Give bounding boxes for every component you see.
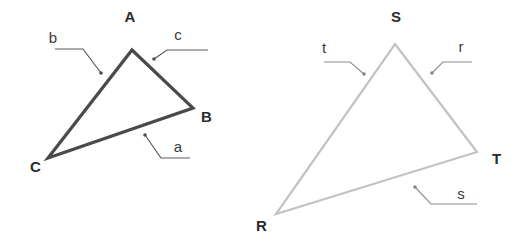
vertex-label-r: R — [256, 217, 267, 234]
side-label-c: c — [174, 26, 182, 43]
triangle-rst-outline — [276, 44, 477, 214]
vertex-label-t: T — [492, 150, 501, 167]
side-b-leader-line — [55, 49, 101, 73]
geometry-figure: A B C a b c — [0, 0, 527, 251]
side-s-leader-line — [415, 187, 477, 204]
side-a-leader-line — [145, 135, 190, 158]
vertex-label-a: A — [125, 8, 136, 25]
side-t-leader-group — [324, 62, 366, 76]
side-t-leader-line — [324, 62, 364, 74]
side-label-r: r — [459, 38, 464, 55]
side-a-leader-group — [143, 133, 190, 158]
side-r-leader-line — [432, 62, 472, 73]
side-label-t: t — [322, 39, 327, 56]
figure-canvas: A B C a b c — [0, 0, 527, 251]
vertex-label-b: B — [201, 108, 212, 125]
side-r-leader-group — [430, 62, 472, 75]
vertex-label-c: C — [30, 158, 41, 175]
side-c-leader-group — [152, 50, 208, 61]
triangle-abc-group: A B C a b c — [30, 8, 212, 175]
side-b-leader-group — [55, 49, 103, 75]
vertex-label-s: S — [391, 8, 401, 25]
side-s-leader-group — [413, 185, 477, 204]
side-label-b: b — [49, 29, 57, 46]
side-label-s: s — [457, 185, 465, 202]
side-label-a: a — [174, 138, 183, 155]
triangle-abc-outline — [48, 50, 193, 158]
side-c-leader-line — [154, 50, 208, 59]
triangle-rst-group: S T R r s t — [256, 8, 501, 234]
